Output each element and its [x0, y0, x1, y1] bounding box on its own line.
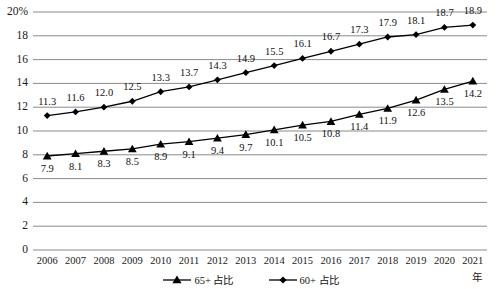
y-axis-tick-label: 4 — [0, 196, 28, 208]
x-axis-tick-label: 2017 — [343, 255, 375, 266]
data-point-label: 8.3 — [90, 158, 118, 169]
y-axis-tick-label: 20% — [0, 6, 28, 18]
data-point-label: 10.5 — [289, 132, 317, 143]
data-point-label: 12.5 — [118, 81, 146, 92]
data-point-label: 16.1 — [289, 38, 317, 49]
x-axis-tick-label: 2014 — [258, 255, 290, 266]
chart-legend: 65+ 占比60+ 占比 — [0, 271, 501, 289]
data-point-label: 9.7 — [232, 142, 260, 153]
x-axis-tick-label: 2008 — [88, 255, 120, 266]
x-axis-tick-label: 2015 — [287, 255, 319, 266]
y-axis-tick-label: 12 — [0, 101, 28, 113]
legend-label: 60+ 占比 — [300, 275, 339, 286]
data-point-label: 14.9 — [232, 53, 260, 64]
x-axis-tick-label: 2018 — [372, 255, 404, 266]
data-point-label: 11.3 — [33, 96, 61, 107]
data-point-label: 11.6 — [62, 92, 90, 103]
data-point-label: 17.3 — [345, 24, 373, 35]
x-axis-tick-label: 2009 — [116, 255, 148, 266]
data-point-label: 13.7 — [175, 67, 203, 78]
data-point-label: 9.4 — [203, 145, 231, 156]
data-point-label: 17.9 — [374, 17, 402, 28]
data-point-label: 11.4 — [345, 121, 373, 132]
y-axis-tick-label: 2 — [0, 220, 28, 232]
legend-label: 65+ 占比 — [194, 275, 233, 286]
y-axis-tick-label: 18 — [0, 30, 28, 42]
data-point-label: 12.0 — [90, 87, 118, 98]
data-point-label: 10.8 — [317, 128, 345, 139]
x-axis-tick-label: 2020 — [428, 255, 460, 266]
data-point-label: 18.1 — [402, 15, 430, 26]
data-point-label: 8.1 — [62, 161, 90, 172]
data-point-label: 13.5 — [430, 96, 458, 107]
data-point-label: 7.9 — [33, 163, 61, 174]
x-axis-tick-label: 2021 — [457, 255, 489, 266]
x-axis-tick-label: 2012 — [201, 255, 233, 266]
legend-diamond-marker-icon — [268, 274, 298, 286]
data-point-label: 8.9 — [147, 151, 175, 162]
data-point-label: 14.3 — [203, 60, 231, 71]
data-point-label: 9.1 — [175, 149, 203, 160]
data-point-label: 14.2 — [459, 88, 487, 99]
x-axis-tick-label: 2016 — [315, 255, 347, 266]
legend-item[interactable]: 60+ 占比 — [268, 274, 339, 286]
data-point-label: 12.6 — [402, 107, 430, 118]
x-axis-tick-label: 2019 — [400, 255, 432, 266]
chart-container: 02468101214161820% 200620072008200920102… — [0, 0, 501, 289]
y-axis-tick-label: 8 — [0, 149, 28, 161]
data-point-label: 11.9 — [374, 115, 402, 126]
x-axis-tick-label: 2010 — [145, 255, 177, 266]
data-point-label: 16.7 — [317, 31, 345, 42]
x-axis-tick-label: 2006 — [31, 255, 63, 266]
y-axis-tick-label: 0 — [0, 244, 28, 256]
y-axis-tick-label: 10 — [0, 125, 28, 137]
data-point-label: 10.1 — [260, 137, 288, 148]
legend-triangle-marker-icon — [162, 274, 192, 286]
x-axis-tick-label: 2013 — [230, 255, 262, 266]
data-point-label: 13.3 — [147, 72, 175, 83]
data-point-label: 18.7 — [430, 7, 458, 18]
legend-item[interactable]: 65+ 占比 — [162, 274, 233, 286]
data-point-label: 8.5 — [118, 156, 146, 167]
y-axis-tick-label: 14 — [0, 77, 28, 89]
data-point-label: 18.9 — [459, 5, 487, 16]
y-axis-tick-label: 16 — [0, 54, 28, 66]
x-axis-tick-label: 2007 — [60, 255, 92, 266]
y-axis-tick-label: 6 — [0, 173, 28, 185]
data-point-label: 15.5 — [260, 46, 288, 57]
x-axis-tick-label: 2011 — [173, 255, 205, 266]
